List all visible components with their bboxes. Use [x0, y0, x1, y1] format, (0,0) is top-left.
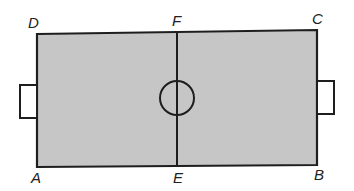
right-goal [317, 81, 334, 114]
label-B: B [314, 166, 324, 183]
label-C: C [312, 10, 323, 27]
left-goal [20, 85, 37, 118]
label-E: E [173, 169, 184, 186]
label-F: F [172, 12, 182, 29]
field-diagram: D F C A E B [0, 0, 354, 191]
label-D: D [28, 14, 39, 31]
label-A: A [30, 169, 41, 186]
